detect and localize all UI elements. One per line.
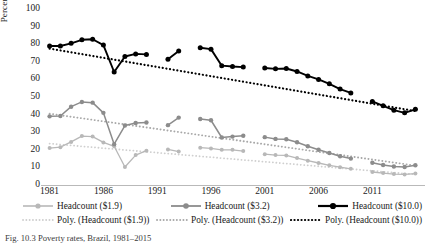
data-point [220, 148, 224, 152]
data-point [370, 99, 375, 104]
data-point [381, 103, 386, 108]
data-point [241, 134, 245, 138]
data-point [262, 65, 267, 70]
data-point [403, 172, 407, 176]
data-point [230, 64, 235, 69]
data-point [90, 100, 94, 104]
legend-item-poly-headcount-3-2[interactable]: Poly. (Headcount ($3.2)) [156, 213, 290, 227]
x-tick-label: 1986 [94, 186, 113, 196]
trendline-2 [50, 49, 416, 111]
data-point [123, 165, 127, 169]
data-point [316, 77, 321, 82]
data-point [402, 165, 406, 169]
data-point [122, 54, 127, 59]
x-tick-label: 1991 [148, 186, 167, 196]
legend-key-line-marker-icon [317, 200, 349, 212]
data-point [316, 148, 320, 152]
data-point [176, 48, 181, 53]
data-point [381, 171, 385, 175]
data-point [295, 140, 299, 144]
legend-row-trendlines: Poly. (Headcount ($1.9)) Poly. (Headcoun… [22, 213, 422, 227]
legend-label: Poly. (Headcount ($10.0)) [325, 215, 422, 225]
data-point [241, 65, 246, 70]
data-point [166, 123, 170, 127]
data-point [231, 148, 235, 152]
data-point [133, 51, 138, 56]
data-point [209, 146, 213, 150]
y-tick-label: 100 [16, 4, 40, 14]
legend-label: Headcount ($3.2) [205, 201, 270, 211]
legend-item-poly-headcount-1-9[interactable]: Poly. (Headcount ($1.9)) [22, 213, 156, 227]
data-point [48, 146, 52, 150]
data-point [338, 87, 343, 92]
legend-item-headcount-1-9[interactable]: Headcount ($1.9) [22, 199, 170, 213]
plot-area [41, 9, 424, 185]
data-point [69, 41, 74, 46]
data-point [349, 156, 353, 160]
data-point [348, 90, 353, 95]
data-point [295, 156, 299, 160]
data-point [101, 111, 105, 115]
data-point [327, 151, 331, 155]
data-point [133, 121, 137, 125]
x-tick-label: 2006 [309, 186, 328, 196]
data-point [79, 37, 84, 42]
data-point [58, 145, 62, 149]
data-point [230, 134, 234, 138]
legend-item-headcount-10-0[interactable]: Headcount ($10.0) [317, 199, 422, 213]
data-point [413, 172, 417, 176]
data-point [370, 170, 374, 174]
series-2 [47, 37, 418, 116]
legend-key-line-marker-icon [170, 200, 202, 212]
data-point [295, 69, 300, 74]
data-point [58, 43, 63, 48]
data-point [80, 100, 84, 104]
legend-label: Headcount ($1.9) [57, 201, 122, 211]
data-point [47, 114, 51, 118]
data-point [69, 104, 73, 108]
legend-item-poly-headcount-10-0[interactable]: Poly. (Headcount ($10.0)) [290, 213, 422, 227]
series-1 [47, 100, 417, 170]
figure-caption: Fig. 10.3 Poverty rates, Brazil, 1981–20… [5, 233, 425, 243]
y-tick-label: 20 [16, 145, 40, 155]
legend-item-headcount-3-2[interactable]: Headcount ($3.2) [170, 199, 318, 213]
data-point [209, 118, 213, 122]
data-point [413, 107, 418, 112]
legend-label: Poly. (Headcount ($1.9)) [57, 215, 149, 225]
data-point [284, 153, 288, 157]
y-axis-tick-labels: 0102030405060708090100 [14, 0, 40, 190]
data-point [69, 140, 73, 144]
data-point [391, 108, 396, 113]
data-point [413, 163, 417, 167]
figure-container: Percentage 0102030405060708090100 198119… [0, 0, 432, 243]
data-point [144, 52, 149, 57]
x-tick-label: 1996 [201, 186, 220, 196]
legend-label: Headcount ($10.0) [352, 201, 422, 211]
data-point [241, 149, 245, 153]
data-point [402, 110, 407, 115]
data-point [90, 37, 95, 42]
data-point [306, 159, 310, 163]
data-point [392, 164, 396, 168]
y-tick-label: 80 [16, 39, 40, 49]
data-point [47, 43, 52, 48]
data-point [263, 135, 267, 139]
data-point [177, 115, 181, 119]
data-point [381, 163, 385, 167]
data-point [144, 149, 148, 153]
data-point [338, 165, 342, 169]
data-point [123, 123, 127, 127]
chart-svg [41, 9, 424, 185]
data-point [327, 163, 331, 167]
data-point [198, 117, 202, 121]
data-point [274, 153, 278, 157]
y-tick-label: 10 [16, 162, 40, 172]
data-point [338, 154, 342, 158]
y-tick-label: 60 [16, 74, 40, 84]
data-point [91, 135, 95, 139]
data-point [208, 47, 213, 52]
data-point [101, 140, 105, 144]
x-tick-label: 1981 [40, 186, 59, 196]
data-point [80, 134, 84, 138]
legend-label: Poly. (Headcount ($3.2)) [191, 215, 283, 225]
